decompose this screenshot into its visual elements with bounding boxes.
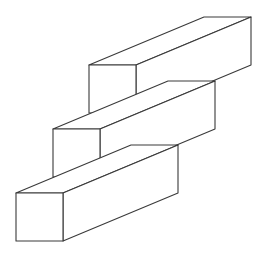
prism-bottom	[16, 145, 178, 241]
prism-bottom-front-face	[16, 193, 63, 241]
stacked-prisms-diagram	[0, 0, 270, 255]
